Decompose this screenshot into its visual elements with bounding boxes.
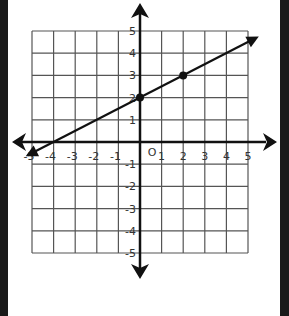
y-tick-label: 3 [129,69,136,82]
coordinate-plane: -5-4-3-2-11234554321-1-2-3-4-5O [0,0,289,316]
origin-label: O [148,146,157,159]
x-tick-label: 1 [158,150,165,163]
axes [12,3,277,279]
x-tick-label: 3 [201,150,208,163]
y-tick-label: -1 [125,158,136,171]
plotted-line [26,37,259,157]
y-tick-label: -5 [125,247,136,260]
y-tick-label: -2 [125,180,136,193]
y-tick-label: -4 [125,225,136,238]
y-tick-label: 5 [129,25,136,38]
x-tick-label: 4 [223,150,230,163]
y-tick-label: -3 [125,203,136,216]
x-tick-label: 5 [245,150,252,163]
x-tick-label: -1 [110,150,121,163]
y-tick-label: 4 [129,47,136,60]
x-tick-label: -3 [67,150,78,163]
data-point [136,94,144,102]
x-tick-label: 2 [180,150,187,163]
data-point [179,71,187,79]
x-tick-label: -4 [45,150,56,163]
x-tick-label: -2 [88,150,99,163]
y-tick-label: 1 [129,114,136,127]
